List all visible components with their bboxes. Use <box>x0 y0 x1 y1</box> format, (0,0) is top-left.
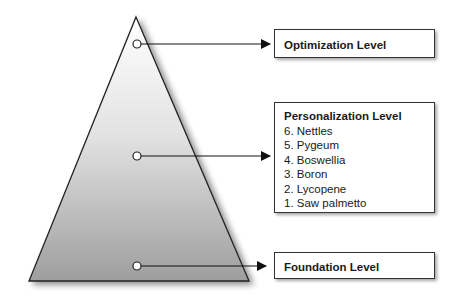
personalization-level-title: Personalization Level <box>284 109 434 124</box>
marker-optimization <box>133 40 141 48</box>
list-item: 3. Boron <box>284 167 434 182</box>
personalization-level-box: Personalization Level 6. Nettles 5. Pyge… <box>274 102 435 213</box>
pyramid-shape <box>29 17 249 281</box>
list-item: 2. Lycopene <box>284 182 434 197</box>
foundation-level-title: Foundation Level <box>284 260 434 275</box>
list-item: 6. Nettles <box>284 124 434 139</box>
list-item: 1. Saw palmetto <box>284 196 434 211</box>
foundation-level-box: Foundation Level <box>274 252 435 279</box>
marker-foundation <box>133 262 141 270</box>
list-item: 4. Boswellia <box>284 153 434 168</box>
optimization-level-title: Optimization Level <box>284 38 434 53</box>
list-item: 5. Pygeum <box>284 138 434 153</box>
optimization-level-box: Optimization Level <box>274 29 435 58</box>
marker-personalization <box>133 152 141 160</box>
